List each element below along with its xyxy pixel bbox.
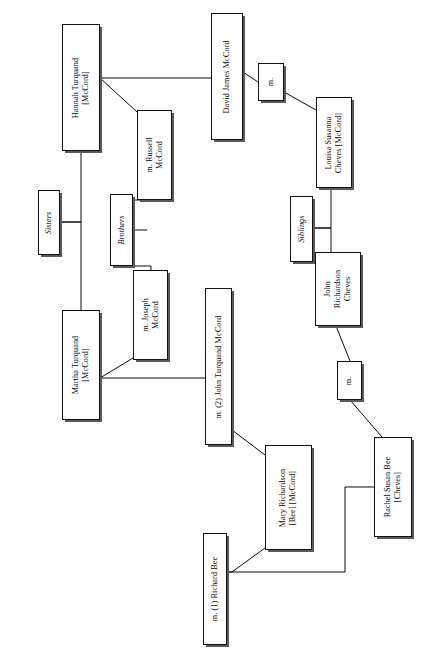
connector-mary-to-richard	[227, 548, 265, 572]
node-label-richard: m. (1) Richard Bee	[210, 557, 220, 622]
node-m_top: m.	[258, 63, 284, 101]
node-david: David James McCord	[211, 13, 243, 140]
node-john2: m. (2) John Turquand McCord	[205, 288, 232, 445]
node-joseph: m. JosephMcCord	[133, 270, 168, 360]
connector-david-to-m-top	[243, 72, 258, 82]
node-johnrc: JohnRichardsonCheves	[315, 252, 361, 326]
node-label-russell: m. RussellMcCord	[145, 137, 165, 173]
node-russell: m. RussellMcCord	[137, 110, 172, 200]
connector-siblings-to-johnrc	[313, 228, 331, 252]
connector-hannah-to-russell	[100, 78, 137, 112]
node-label-sisters: Sisters	[44, 211, 54, 234]
node-martha: Martha Turquand[McCord]	[62, 310, 100, 420]
node-m_bot: m.	[337, 361, 362, 400]
connector-sisters-to-martha	[60, 222, 81, 310]
node-richard: m. (1) Richard Bee	[203, 533, 227, 645]
node-label-david: David James McCord	[222, 40, 232, 113]
connector-m-bot-to-rachel	[350, 400, 382, 437]
connector-louisa-to-siblings	[313, 188, 331, 228]
node-label-siblings: Siblings	[297, 215, 307, 242]
connector-m-top-to-louisa	[284, 92, 316, 110]
node-label-martha: Martha Turquand[McCord]	[71, 336, 91, 395]
node-label-mary: Mary Richardson[Bee] [McCord]	[279, 468, 299, 527]
connector-johnrc-to-m-bot	[336, 326, 350, 361]
node-label-john2: m. (2) John Turquand McCord	[214, 315, 224, 418]
node-hannah: Hannah Turquand[McCord]	[62, 24, 100, 151]
node-brothers: Brothers	[110, 194, 133, 266]
node-label-m_top: m.	[266, 78, 276, 87]
connector-martha-to-joseph	[100, 358, 133, 378]
family-tree-diagram: Hannah Turquand[McCord]SistersBrothersSi…	[0, 0, 429, 669]
connector-hannah-to-sisters	[60, 151, 81, 222]
node-mary: Mary Richardson[Bee] [McCord]	[265, 445, 312, 550]
node-siblings: Siblings	[290, 196, 313, 262]
node-label-louisa: Louisa SusannaCheves [McCord]	[324, 112, 344, 172]
node-louisa: Louisa SusannaCheves [McCord]	[316, 97, 352, 188]
connector-john2-to-mary	[232, 430, 265, 455]
node-label-hannah: Hannah Turquand[McCord]	[71, 57, 91, 117]
node-label-johnrc: JohnRichardsonCheves	[323, 270, 353, 308]
node-sisters: Sisters	[38, 190, 60, 255]
node-label-rachel: Rachel Susan Bee[Cheves]	[383, 457, 403, 518]
node-label-m_bot: m.	[345, 376, 355, 385]
node-label-joseph: m. JosephMcCord	[141, 298, 161, 332]
node-label-brothers: Brothers	[117, 215, 127, 244]
node-rachel: Rachel Susan Bee[Cheves]	[374, 437, 412, 537]
